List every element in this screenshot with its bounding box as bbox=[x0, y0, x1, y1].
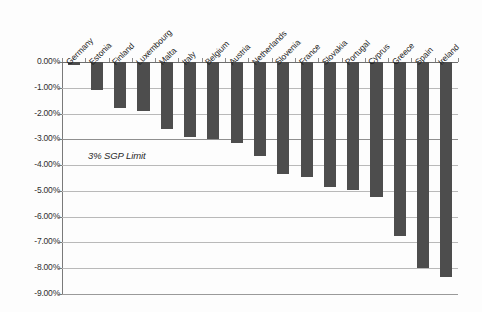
category-tick bbox=[388, 58, 389, 62]
y-axis-tick-label: -8.00% bbox=[4, 262, 60, 272]
bar bbox=[301, 62, 313, 177]
bar bbox=[324, 62, 336, 187]
bar bbox=[161, 62, 173, 129]
y-axis-tick-label: -6.00% bbox=[4, 211, 60, 221]
category-tick bbox=[225, 58, 226, 62]
y-axis-tick-label: -2.00% bbox=[4, 108, 60, 118]
gridline bbox=[62, 268, 458, 269]
bar bbox=[370, 62, 382, 197]
y-axis-tick-label: -1.00% bbox=[4, 82, 60, 92]
y-axis-tick-label: -4.00% bbox=[4, 159, 60, 169]
bar bbox=[184, 62, 196, 137]
y-axis-tick-label: 0.00% bbox=[4, 56, 60, 66]
bar bbox=[254, 62, 266, 156]
y-axis-tick-label: -3.00% bbox=[4, 133, 60, 143]
category-tick bbox=[62, 58, 63, 62]
bar bbox=[440, 62, 452, 277]
bar bbox=[207, 62, 219, 139]
gridline bbox=[62, 294, 458, 295]
category-tick bbox=[295, 58, 296, 62]
bar bbox=[137, 62, 149, 111]
bar bbox=[417, 62, 429, 268]
bar bbox=[231, 62, 243, 143]
sgp-limit-annotation: 3% SGP Limit bbox=[88, 150, 146, 161]
category-tick bbox=[132, 58, 133, 62]
bar bbox=[277, 62, 289, 174]
category-tick bbox=[458, 58, 459, 62]
plot-area bbox=[62, 62, 458, 294]
y-axis-tick-label: -7.00% bbox=[4, 236, 60, 246]
bar bbox=[347, 62, 359, 190]
gridline bbox=[62, 242, 458, 243]
y-axis-tick-label: -5.00% bbox=[4, 185, 60, 195]
bar bbox=[114, 62, 126, 108]
bar-chart: 0.00%-1.00%-2.00%-3.00%-4.00%-5.00%-6.00… bbox=[0, 0, 482, 312]
bar bbox=[394, 62, 406, 236]
y-axis-tick-label: -9.00% bbox=[4, 288, 60, 298]
y-axis: 0.00%-1.00%-2.00%-3.00%-4.00%-5.00%-6.00… bbox=[0, 0, 60, 312]
